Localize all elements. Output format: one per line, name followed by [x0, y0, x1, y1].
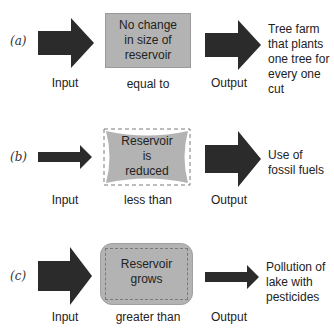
relation-label: less than — [100, 193, 196, 207]
output-arrow-small-icon — [205, 265, 261, 289]
example-line: lake with — [266, 275, 325, 290]
reservoir-text-line: grows — [101, 272, 192, 287]
reservoir-text-line: reduced — [103, 164, 191, 179]
output-arrow-large-icon — [205, 20, 263, 70]
input-label: Input — [40, 76, 90, 90]
example-line: one tree for — [268, 52, 334, 67]
reservoir-text-line: in size of — [106, 33, 190, 48]
reservoir-text-line: No change — [106, 18, 190, 33]
reservoir-box-unchanged: No change in size of reservoir — [105, 13, 191, 68]
reservoir-box-grows: Reservoir grows — [100, 243, 193, 305]
input-arrow-large-icon — [38, 247, 94, 305]
reservoir-text-b: Reservoir is reduced — [103, 134, 191, 179]
row-a-tag: (a) — [10, 34, 27, 48]
example-line: that plants — [268, 37, 334, 52]
example-line: Use of — [268, 148, 324, 163]
row-b-tag: (b) — [10, 150, 27, 164]
reservoir-text-line: reservoir — [106, 48, 190, 63]
example-line: Pollution of — [266, 260, 325, 275]
input-arrow-small-icon — [38, 145, 94, 169]
output-label: Output — [203, 193, 255, 207]
reservoir-text-line: Reservoir — [101, 257, 192, 272]
example-line: pesticides — [266, 290, 325, 305]
relation-label: equal to — [100, 77, 196, 91]
example-description-b: Use of fossil fuels — [268, 148, 324, 178]
input-label: Input — [40, 193, 90, 207]
example-line: fossil fuels — [268, 163, 324, 178]
example-line: every one cut — [268, 67, 334, 97]
output-arrow-large-icon — [205, 131, 263, 187]
output-label: Output — [203, 76, 255, 90]
row-c-tag: (c) — [10, 269, 26, 283]
input-arrow-large-icon — [38, 18, 96, 68]
example-line: Tree farm — [268, 22, 334, 37]
input-label: Input — [40, 310, 90, 324]
example-description-c: Pollution of lake with pesticides — [266, 260, 325, 305]
example-description-a: Tree farm that plants one tree for every… — [268, 22, 334, 97]
reservoir-text-line: Reservoir — [103, 134, 191, 149]
output-label: Output — [203, 310, 255, 324]
reservoir-text-line: is — [103, 149, 191, 164]
relation-label: greater than — [100, 310, 196, 324]
